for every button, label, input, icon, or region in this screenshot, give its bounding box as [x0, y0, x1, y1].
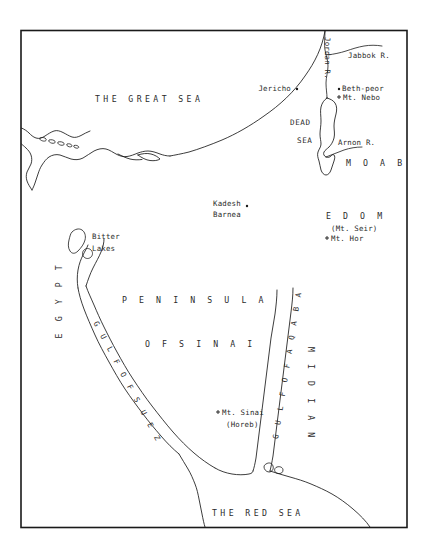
marker-kadesh-dot	[246, 205, 248, 207]
label-mt-sinai: Mt. Sinai	[222, 408, 264, 417]
label-mt-nebo: Mt. Nebo	[343, 93, 380, 102]
egypt-north-coastline	[22, 144, 33, 190]
sinai-southern-tip	[215, 468, 253, 475]
great-bitter-lake	[68, 229, 85, 253]
map-canvas: THE GREAT SEA THE RED SEA DEAD SEA Jorda…	[0, 0, 430, 558]
historical-map: THE GREAT SEA THE RED SEA DEAD SEA Jorda…	[0, 0, 430, 558]
delta-islet-5	[74, 145, 79, 148]
label-mt-hor: Mt. Hor	[331, 234, 364, 243]
label-beth-peor: Beth-peor	[342, 84, 384, 93]
label-kadesh: Kadesh	[213, 199, 241, 208]
marker-mt-hor-cross	[325, 236, 329, 240]
red-sea-north-africa-coast	[179, 454, 205, 527]
nile-delta-coastline	[32, 149, 170, 190]
egypt-east-coast-suez	[78, 288, 179, 454]
sinai-east-coast-aqaba	[253, 290, 277, 471]
egypt-coast-upper	[22, 128, 91, 138]
label-egypt: E G Y P T	[54, 262, 64, 339]
marker-mt-nebo-cross	[337, 95, 341, 99]
label-gulf-of-aqaba: G U L F O F A Q A B A	[271, 289, 303, 439]
label-jericho: Jericho	[258, 84, 291, 93]
red-sea-arabia-coast	[270, 471, 370, 527]
label-horeb: (Horeb)	[226, 420, 259, 429]
label-dead-sea-line1: DEAD	[290, 118, 311, 127]
label-moab: M O A B	[346, 158, 406, 168]
delta-islet-2	[49, 140, 56, 144]
label-barnea: Barnea	[213, 210, 241, 219]
label-mt-seir: (Mt. Seir)	[331, 224, 378, 233]
label-peninsula: P E N I N S U L A	[122, 295, 267, 305]
sinai-west-coast	[86, 286, 215, 468]
label-the-red-sea: THE RED SEA	[212, 508, 304, 518]
label-the-great-sea: THE GREAT SEA	[95, 94, 203, 104]
map-border-frame	[21, 31, 407, 528]
label-jordan-river: Jordan R.	[323, 37, 332, 79]
delta-islet-3	[58, 142, 65, 146]
label-lakes: Lakes	[92, 244, 115, 253]
label-bitter: Bitter	[92, 232, 120, 241]
label-dead-sea-line2: SEA	[297, 136, 313, 145]
delta-islet-4	[67, 144, 72, 147]
label-of-sinai: O F S I N A I	[145, 339, 256, 349]
label-midian: M I D I A N	[306, 347, 316, 441]
delta-islet-1	[40, 137, 47, 141]
marker-beth-peor-dot	[338, 88, 340, 90]
marker-jericho-dot	[296, 88, 298, 90]
label-arnon-river: Arnon R.	[338, 138, 375, 147]
tiran-island	[264, 463, 273, 472]
marker-mt-sinai-cross	[216, 410, 220, 414]
label-edom: E D O M	[326, 211, 386, 221]
sanafir-island	[275, 467, 283, 474]
dead-sea-outline	[318, 98, 337, 175]
label-jabbok-river: Jabbok R.	[348, 51, 390, 60]
